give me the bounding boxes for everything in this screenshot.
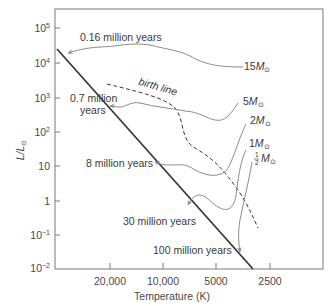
time-label-0-7-line1: 0.7 million <box>70 92 117 104</box>
mass-label-half: 1 2 M⊙ <box>254 151 276 166</box>
mass-label-1: 1M⊙ <box>249 137 270 150</box>
svg-text:103: 103 <box>34 92 50 104</box>
track-1-msun <box>188 150 246 209</box>
svg-text:1: 1 <box>255 151 259 158</box>
time-label-8: 8 million years <box>86 157 153 169</box>
birth-line <box>107 84 258 228</box>
x-axis-ticks <box>110 263 270 269</box>
svg-text:10−2: 10−2 <box>30 262 50 274</box>
track-2-msun <box>155 124 246 175</box>
svg-text:102: 102 <box>34 126 50 138</box>
time-label-30: 30 million years <box>123 215 196 227</box>
mass-labels: 15M⊙ 5M⊙ 2M⊙ 1M⊙ 1 2 M⊙ <box>243 60 276 166</box>
svg-text:104: 104 <box>34 57 50 69</box>
time-labels: 0.16 million years 0.7 million years 8 m… <box>70 31 232 256</box>
svg-text:20,000: 20,000 <box>94 275 126 287</box>
track-15-msun <box>68 44 243 67</box>
mass-label-5: 5M⊙ <box>243 95 264 108</box>
svg-text:5000: 5000 <box>204 275 228 287</box>
svg-text:10−1: 10−1 <box>30 229 50 241</box>
svg-text:2500: 2500 <box>258 275 282 287</box>
y-tick-labels: 105 104 103 102 10 1 10−1 10−2 <box>30 22 50 274</box>
svg-text:M⊙: M⊙ <box>261 152 276 165</box>
track-5-msun <box>110 103 238 121</box>
svg-text:10: 10 <box>38 160 50 172</box>
hr-diagram: 105 104 103 102 10 1 10−1 10−2 L/L⊙ 20,0… <box>0 0 330 306</box>
svg-text:2: 2 <box>255 159 259 166</box>
svg-text:105: 105 <box>34 22 50 34</box>
y-axis-ticks <box>55 28 60 235</box>
mass-label-2: 2M⊙ <box>250 114 271 127</box>
time-label-0-7-line2: years <box>80 104 106 116</box>
plot-frame <box>55 9 323 269</box>
time-label-0-16: 0.16 million years <box>80 31 162 43</box>
svg-text:10,000: 10,000 <box>147 275 179 287</box>
time-label-100: 100 million years <box>153 244 232 256</box>
track-half-msun <box>239 162 252 252</box>
svg-text:1: 1 <box>44 195 50 207</box>
y-axis-title: L/L⊙ <box>14 140 27 161</box>
mass-label-15: 15M⊙ <box>244 60 270 73</box>
birth-line-label: birth line <box>137 75 179 98</box>
x-tick-labels: 20,000 10,000 5000 2500 <box>94 275 282 287</box>
x-axis-title: Temperature (K) <box>134 290 210 302</box>
